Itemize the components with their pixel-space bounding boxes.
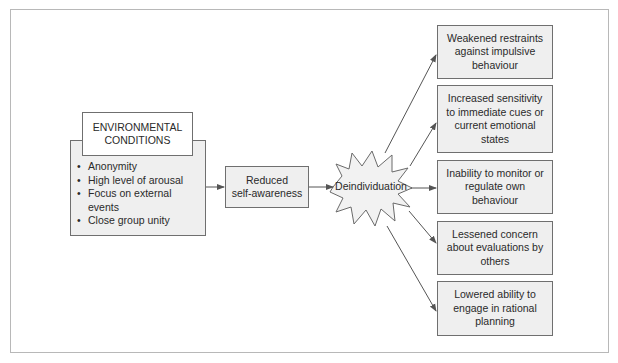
outcome-2-line3: current emotional xyxy=(446,119,543,133)
outcome-4-line3: others xyxy=(447,255,543,269)
outcome-1-line1: Weakened restraints xyxy=(447,32,543,46)
outcome-5-line1: Lowered ability to xyxy=(453,288,536,302)
arrow-to-outcome-1 xyxy=(385,55,436,153)
outcome-inability-to-monitor: Inability to monitor or regulate own beh… xyxy=(437,160,553,214)
arrow-to-outcome-5 xyxy=(387,226,436,311)
outcome-3-line2: regulate own xyxy=(446,180,543,194)
outcome-1-line2: against impulsive xyxy=(447,45,543,59)
deindividuation-label: Deindividuation xyxy=(330,180,412,193)
outcome-weakened-restraints: Weakened restraints against impulsive be… xyxy=(437,25,553,79)
outcome-2-line2: to immediate cues or xyxy=(446,106,543,120)
outcome-5-line2: engage in rational xyxy=(453,302,536,316)
outcome-3-line1: Inability to monitor or xyxy=(446,167,543,181)
outcome-lessened-concern: Lessened concern about evaluations by ot… xyxy=(437,221,553,275)
outcome-3-line3: behaviour xyxy=(446,194,543,208)
outcome-increased-sensitivity: Increased sensitivity to immediate cues … xyxy=(437,85,553,153)
outcome-5-line3: planning xyxy=(453,315,536,329)
outcome-2-line4: states xyxy=(446,133,543,147)
outcome-4-line1: Lessened concern xyxy=(447,228,543,242)
outcome-1-line3: behaviour xyxy=(447,59,543,73)
outcome-2-line1: Increased sensitivity xyxy=(446,92,543,106)
arrow-to-outcome-2 xyxy=(410,123,436,166)
outcome-lowered-ability: Lowered ability to engage in rational pl… xyxy=(437,281,553,336)
outcome-4-line2: about evaluations by xyxy=(447,241,543,255)
arrow-to-outcome-4 xyxy=(409,211,436,243)
